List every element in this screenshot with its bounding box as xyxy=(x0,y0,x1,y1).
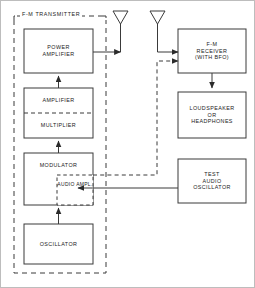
fm-receiver-line2: RECEIVER xyxy=(197,48,228,55)
power-amplifier-line2: AMPLIFIER xyxy=(42,51,74,58)
label-oscillator: OSCILLATOR xyxy=(24,224,93,264)
label-loudspeaker: LOUDSPEAKER OR HEADPHONES xyxy=(178,92,246,138)
label-fm-receiver: F-M RECEIVER (WITH BFO) xyxy=(178,29,246,73)
fm-receiver-line3: (WITH BFO) xyxy=(195,54,229,61)
fm-receiver-line1: F-M xyxy=(207,41,218,48)
power-amplifier-line1: POWER xyxy=(47,44,69,51)
test-audio-oscillator-line1: TEST xyxy=(204,171,219,178)
loudspeaker-line1: LOUDSPEAKER xyxy=(190,105,235,112)
label-power-amplifier: POWER AMPLIFIER xyxy=(24,29,93,73)
label-multiplier: MULTIPLIER xyxy=(24,113,93,138)
label-audio-ampl: AUDIO AMPL. xyxy=(57,181,93,187)
loudspeaker-line3: HEADPHONES xyxy=(191,118,233,125)
loudspeaker-line2: OR xyxy=(208,112,217,119)
transmitter-group-label: F-M TRANSMITTER xyxy=(20,11,82,17)
label-test-audio-oscillator: TEST AUDIO OSCILLATOR xyxy=(178,159,246,203)
audio-ampl-line2: AMPL. xyxy=(76,181,93,187)
modulator-line1: MODULATOR xyxy=(40,162,78,169)
block-audio-ampl xyxy=(57,175,93,205)
audio-ampl-line1: AUDIO xyxy=(57,181,74,187)
test-audio-oscillator-line3: OSCILLATOR xyxy=(193,184,231,191)
label-modulator: MODULATOR xyxy=(24,155,93,175)
label-amplifier: AMPLIFIER xyxy=(24,88,93,113)
fm-transmitter-receiver-block-diagram: F-M TRANSMITTER POWER AMPLIFIER AMPLIFIE… xyxy=(0,0,255,288)
amplifier-line1: AMPLIFIER xyxy=(42,97,74,104)
test-audio-oscillator-line2: AUDIO xyxy=(202,178,221,185)
oscillator-line1: OSCILLATOR xyxy=(40,241,78,248)
multiplier-line1: MULTIPLIER xyxy=(41,122,76,129)
